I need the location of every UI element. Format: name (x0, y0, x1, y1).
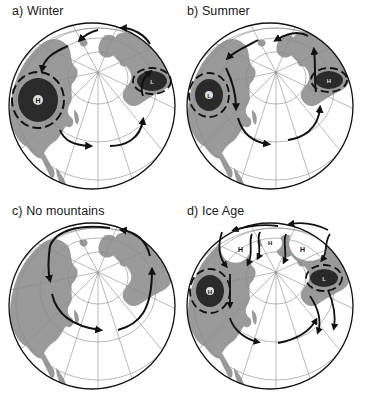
panel-winter: a) Winter H L (0, 0, 183, 200)
svg-text:L: L (322, 276, 326, 282)
panel-summer: b) Summer L H (178, 0, 361, 200)
ice-high-east: H (300, 246, 305, 253)
svg-text:H: H (35, 97, 40, 104)
ice-high-west: H (238, 246, 243, 253)
svg-text:H: H (327, 78, 331, 84)
globe-ice-age: H H H H L (178, 200, 361, 400)
svg-text:L: L (150, 79, 154, 85)
svg-text:L: L (207, 93, 211, 99)
panel-ice-age: d) Ice Age H H H H L (178, 200, 361, 400)
globe-summer: L H (178, 0, 361, 200)
svg-text:H: H (208, 289, 212, 295)
globe-no-mountains (0, 200, 183, 400)
ice-high-center: H (268, 240, 272, 246)
panel-no-mountains: c) No mountains (0, 200, 183, 400)
globe-winter: H L (0, 0, 183, 200)
